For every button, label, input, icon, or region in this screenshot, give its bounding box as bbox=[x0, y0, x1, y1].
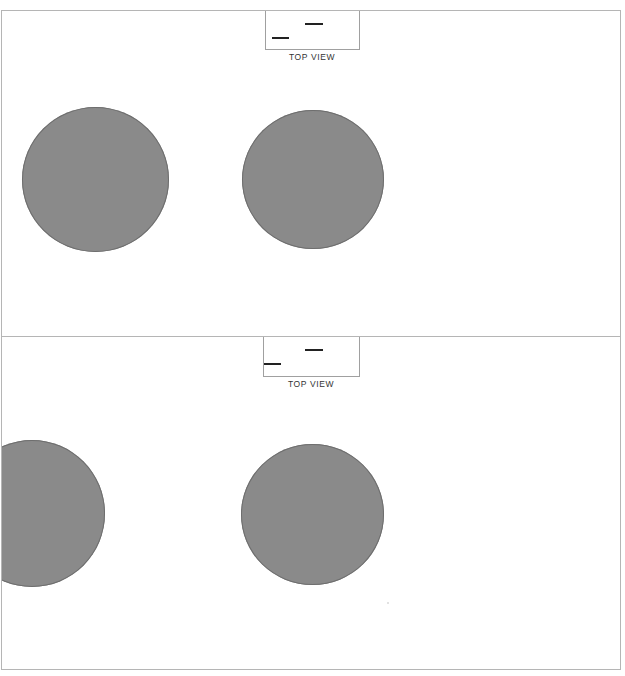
top-view-label: TOP VIEW bbox=[261, 379, 361, 389]
top-view-inset-2 bbox=[263, 337, 360, 377]
diagram-panel-1: TOP VIEW bbox=[1, 10, 621, 337]
top-view-marker-upper bbox=[305, 349, 323, 351]
top-view-inset-1 bbox=[265, 11, 360, 50]
top-view-label: TOP VIEW bbox=[262, 52, 362, 62]
top-view-marker-lower bbox=[264, 363, 281, 365]
circle-disc-right bbox=[242, 110, 384, 249]
stray-dot bbox=[387, 602, 389, 604]
top-view-marker-upper bbox=[305, 23, 323, 25]
circle-disc-left bbox=[22, 107, 169, 252]
top-view-marker-lower bbox=[272, 37, 289, 39]
clipped-caption-text bbox=[0, 0, 625, 4]
diagram-panel-2: TOP VIEW bbox=[1, 336, 621, 670]
circle-disc-right bbox=[241, 444, 384, 585]
circle-disc-left-clipped bbox=[1, 440, 105, 587]
